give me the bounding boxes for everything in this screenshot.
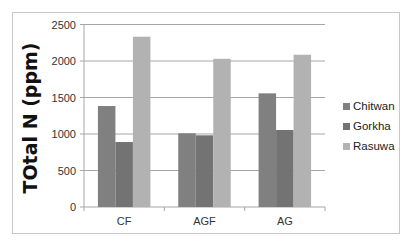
bar-chitwan-cf — [98, 106, 116, 207]
legend-swatch-icon — [343, 103, 350, 110]
x-category-label: AG — [255, 215, 315, 227]
bar-gorkha-ag — [276, 130, 294, 207]
y-tick-label: 1000 — [36, 128, 76, 140]
bar-chitwan-ag — [259, 93, 277, 207]
bar-chitwan-agf — [178, 133, 196, 207]
y-tick-label: 0 — [36, 201, 76, 213]
legend-label: Gorkha — [353, 120, 391, 132]
bar-rasuwa-cf — [133, 37, 151, 207]
legend-swatch-icon — [343, 143, 350, 150]
y-tick-label: 500 — [36, 165, 76, 177]
x-category-label: AGF — [175, 215, 235, 227]
y-tick-label: 2500 — [36, 19, 76, 31]
y-tick-label: 1500 — [36, 92, 76, 104]
legend: ChitwanGorkhaRasuwa — [343, 96, 395, 156]
legend-label: Rasuwa — [353, 140, 395, 152]
legend-label: Chitwan — [353, 100, 395, 112]
legend-item-chitwan: Chitwan — [343, 96, 395, 116]
legend-swatch-icon — [343, 123, 350, 130]
legend-item-gorkha: Gorkha — [343, 116, 395, 136]
bar-gorkha-cf — [115, 142, 132, 207]
bar-rasuwa-ag — [294, 55, 312, 207]
bar-gorkha-agf — [196, 135, 214, 207]
y-tick-label: 2000 — [36, 55, 76, 67]
x-category-label: CF — [94, 215, 154, 227]
bar-rasuwa-agf — [213, 59, 231, 207]
legend-item-rasuwa: Rasuwa — [343, 136, 395, 156]
